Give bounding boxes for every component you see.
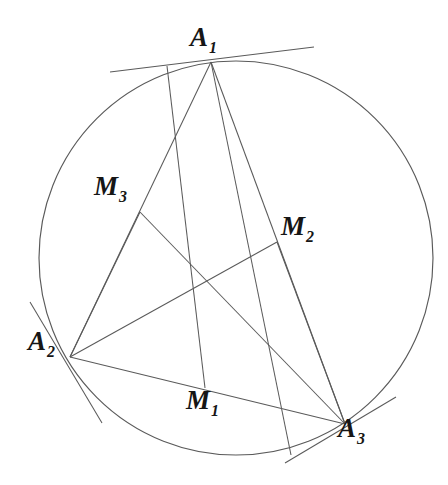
chord-a1-through-center-line [211, 62, 291, 455]
geometry-figure: A1 A2 A3 M1 M2 M3 [0, 0, 448, 485]
point-label-a2: A2 [28, 328, 55, 360]
point-label-a2-subscript: 2 [46, 343, 55, 360]
point-label-a3-letter: A [338, 413, 356, 443]
point-label-a1: A1 [190, 24, 217, 56]
point-label-a2-letter: A [28, 326, 46, 356]
point-label-a1-letter: A [190, 22, 208, 52]
point-label-m1-letter: M [186, 385, 210, 415]
point-label-a3-subscript: 3 [356, 430, 365, 447]
point-label-m1-subscript: 1 [210, 402, 219, 419]
point-label-a1-subscript: 1 [208, 39, 217, 56]
chord-m3-a2-line [70, 212, 140, 357]
circumcircle [39, 61, 433, 455]
point-label-a3: A3 [338, 415, 365, 447]
cevian-a2-m2-line [70, 242, 277, 357]
chord-m2-a3-extension-line [277, 242, 345, 424]
cevian-a3-m3-line [140, 212, 345, 424]
geometry-canvas [0, 0, 448, 485]
point-label-m3: M3 [94, 173, 127, 205]
point-label-m2-subscript: 2 [305, 228, 314, 245]
point-label-m3-letter: M [94, 171, 118, 201]
point-label-m2-letter: M [281, 211, 305, 241]
point-label-m1: M1 [186, 387, 219, 419]
point-label-m2: M2 [281, 213, 314, 245]
point-label-m3-subscript: 3 [118, 188, 127, 205]
